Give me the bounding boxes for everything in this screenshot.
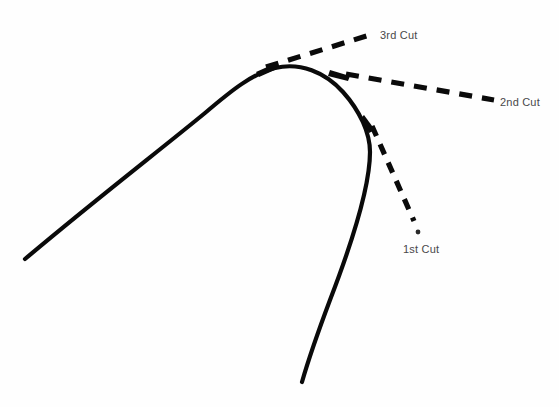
main-curve-path [25,66,370,382]
diagram-canvas: 3rd Cut 2nd Cut 1st Cut [0,0,559,407]
cut-line-1st [372,126,414,221]
cut-line-3rd [266,34,373,67]
cut-1-end-dot [416,230,421,235]
cut-line-2nd [346,74,494,100]
cut-label-1st: 1st Cut [403,243,439,255]
curve-and-cuts-svg [0,0,559,407]
cut-label-3rd: 3rd Cut [380,29,417,41]
cut-label-2nd: 2nd Cut [500,96,540,108]
